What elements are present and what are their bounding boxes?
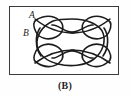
figure-container: A B (B): [0, 0, 130, 97]
point-label-b: B: [23, 29, 29, 39]
figure-caption: (B): [0, 80, 130, 92]
figure-frame-border: [9, 6, 119, 75]
point-label-a: A: [29, 11, 35, 21]
